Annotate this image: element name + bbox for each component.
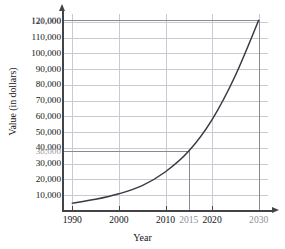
y-tick-label: 120,000 xyxy=(31,17,61,26)
y-tick-label: 110,000 xyxy=(31,33,61,42)
y-tick-label: 30,000 xyxy=(36,159,61,168)
x-tick-mark xyxy=(212,206,213,212)
y-tick-label: 60,000 xyxy=(36,112,61,121)
y-axis-title: Value (in dollars) xyxy=(7,47,18,157)
y-tick-label: 90,000 xyxy=(36,65,61,74)
y-tick-label: 10,000 xyxy=(36,191,61,200)
x-tick-label: 2030 xyxy=(244,214,274,225)
y-tick-label: 50,000 xyxy=(36,128,61,137)
x-tick-label: 2020 xyxy=(197,214,227,225)
x-tick-label: 1990 xyxy=(57,214,87,225)
x-axis-line xyxy=(63,210,274,212)
x-axis-title: Year xyxy=(0,232,285,243)
y-tick-label: 80,000 xyxy=(36,80,61,89)
y-axis-line xyxy=(62,10,64,212)
y-tick-label: 38,000 xyxy=(36,147,61,156)
curve-path xyxy=(72,20,258,203)
x-tick-label: 2000 xyxy=(104,214,134,225)
x-tick-mark xyxy=(166,206,167,212)
x-tick-mark xyxy=(72,206,73,212)
y-tick-label: 100,000 xyxy=(31,49,61,58)
y-tick-label: 20,000 xyxy=(36,175,61,184)
x-tick-mark xyxy=(119,206,120,212)
x-axis-arrow-icon xyxy=(272,207,279,213)
y-tick-label: 70,000 xyxy=(36,96,61,105)
chart-screenshot: 121,000120,000110,000100,00090,00080,000… xyxy=(0,0,285,249)
